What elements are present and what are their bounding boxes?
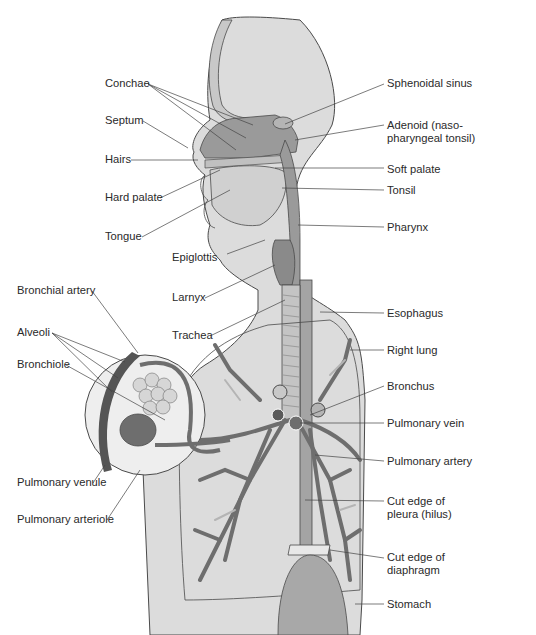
label-pulmonary-venule: Pulmonary venule [17,476,107,489]
label-stomach: Stomach [387,598,431,611]
label-soft-palate: Soft palate [387,163,441,176]
label-adenoid-line2: pharyngeal tonsil) [387,132,475,145]
diaphragm-cut-edge [288,545,330,555]
capillary-network [120,414,156,446]
label-septum: Septum [105,114,144,127]
label-cut-edge-pleura-line2: pleura (hilus) [387,508,452,521]
label-hard-palate: Hard palate [105,191,163,204]
label-tongue: Tongue [105,230,142,243]
label-tonsil: Tonsil [387,184,416,197]
label-bronchial-artery: Bronchial artery [17,284,95,297]
label-epiglottis: Epiglottis [172,251,217,264]
pulmonary-vein-cross [272,409,284,421]
respiratory-anatomy-figure: Conchae Septum Hairs Hard palate Tongue … [0,0,536,635]
bronchus-cross-left [273,385,287,399]
anatomy-illustration [0,0,536,635]
label-pulmonary-artery: Pulmonary artery [387,455,472,468]
label-sphenoidal-sinus: Sphenoidal sinus [387,77,472,90]
label-larynx: Larnyx [172,291,206,304]
label-trachea: Trachea [172,329,213,342]
label-pulmonary-vein: Pulmonary vein [387,417,464,430]
body-silhouette [143,17,365,635]
label-cut-edge-diaphragm-line1: Cut edge of [387,551,445,564]
sphenoidal-sinus [273,117,293,129]
label-right-lung: Right lung [387,344,437,357]
label-cut-edge-diaphragm-line2: diaphragm [387,564,440,577]
label-esophagus: Esophagus [387,307,443,320]
label-adenoid-line1: Adenoid (naso- [387,119,463,132]
label-conchae: Conchae [105,77,150,90]
label-alveoli: Alveoli [17,326,50,339]
label-bronchus: Bronchus [387,380,434,393]
label-bronchiole: Bronchiole [17,358,70,371]
label-pulmonary-arteriole: Pulmonary arteriole [17,513,114,526]
label-hairs: Hairs [105,153,131,166]
label-cut-edge-pleura-line1: Cut edge of [387,495,445,508]
label-pharynx: Pharynx [387,221,428,234]
